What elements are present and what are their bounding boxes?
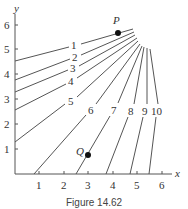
contour-label-7: 7 [111,104,117,116]
point-p-label: P [112,14,120,26]
contour-lines [15,29,158,174]
contour-diagram: 1 2 3 4 5 6 y 1 2 3 4 5 6 x [0,0,188,209]
point-p [115,30,121,36]
figure-caption: Figure 14.62 [66,197,123,208]
point-q [85,152,91,158]
y-tick-6: 6 [4,19,10,31]
x-tick-2: 2 [61,179,67,191]
contour-label-8: 8 [128,105,134,117]
y-tick-2: 2 [4,118,10,130]
point-q-label: Q [76,145,84,157]
y-tick-3: 3 [4,93,10,105]
y-tick-1: 1 [4,143,10,155]
x-tick-4: 4 [110,179,116,191]
x-tick-6: 6 [159,179,165,191]
x-tick-3: 3 [85,179,91,191]
contour-label-6: 6 [88,104,94,116]
x-axis-label: x [174,167,180,179]
contour-label-5: 5 [68,95,74,107]
contour-label-9: 9 [142,105,148,117]
y-axis-label: y [13,2,19,14]
contour-label-3: 3 [70,62,76,74]
y-tick-4: 4 [4,68,10,80]
contour-label-10: 10 [151,105,163,117]
contour-label-1: 1 [71,39,77,51]
x-tick-5: 5 [134,179,140,191]
contour-label-4: 4 [68,75,74,87]
x-tick-1: 1 [36,179,42,191]
y-tick-5: 5 [4,43,10,55]
